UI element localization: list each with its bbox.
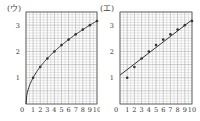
x-tick-label: 8 <box>81 106 85 114</box>
data-point <box>162 38 165 41</box>
x-tick-label: 2 <box>132 106 136 114</box>
data-point <box>74 33 77 36</box>
x-tick-label: 0 <box>114 106 118 114</box>
data-point <box>191 20 194 23</box>
chart-e: 012345678910123 <box>100 0 200 121</box>
x-tick-label: 5 <box>154 106 158 114</box>
data-point <box>32 76 35 79</box>
x-tick-label: 9 <box>183 106 187 114</box>
grid <box>26 12 97 104</box>
x-tick-label: 5 <box>59 106 63 114</box>
chart-panel-e: (エ) 012345678910123 <box>100 0 200 121</box>
data-point <box>155 44 158 47</box>
x-tick-label: 4 <box>52 106 56 114</box>
data-point <box>140 57 143 60</box>
x-tick-label: 1 <box>125 106 129 114</box>
x-tick-label: 1 <box>31 106 35 114</box>
grid <box>120 12 192 104</box>
chart-u: 012345678910123 <box>0 0 100 121</box>
data-point <box>133 66 136 69</box>
data-point <box>96 20 99 23</box>
x-tick-label: 7 <box>168 106 172 114</box>
data-point <box>53 50 56 53</box>
y-tick-label: 3 <box>110 22 114 30</box>
data-point <box>169 33 172 36</box>
x-tick-label: 0 <box>20 106 24 114</box>
y-tick-label: 3 <box>16 22 20 30</box>
data-point <box>176 28 179 31</box>
x-tick-label: 10 <box>93 106 100 114</box>
y-tick-label: 1 <box>16 74 20 82</box>
y-tick-label: 1 <box>110 74 114 82</box>
y-tick-label: 2 <box>16 48 20 56</box>
x-tick-label: 4 <box>147 106 151 114</box>
x-tick-label: 7 <box>74 106 78 114</box>
x-tick-label: 10 <box>188 106 196 114</box>
chart-panel-u: (ウ) 012345678910123 <box>0 0 100 121</box>
x-tick-label: 6 <box>67 106 71 114</box>
x-tick-label: 3 <box>45 106 49 114</box>
data-point <box>67 38 70 41</box>
data-point <box>148 50 151 53</box>
data-point <box>39 66 42 69</box>
data-point <box>184 24 187 27</box>
data-point <box>60 44 63 47</box>
data-point <box>46 57 49 60</box>
data-point <box>126 76 129 79</box>
x-tick-label: 2 <box>38 106 42 114</box>
y-tick-label: 2 <box>110 48 114 56</box>
data-point <box>89 24 92 27</box>
data-point <box>82 28 85 31</box>
x-tick-label: 8 <box>176 106 180 114</box>
x-tick-label: 3 <box>140 106 144 114</box>
x-tick-label: 9 <box>88 106 92 114</box>
x-tick-label: 6 <box>161 106 165 114</box>
